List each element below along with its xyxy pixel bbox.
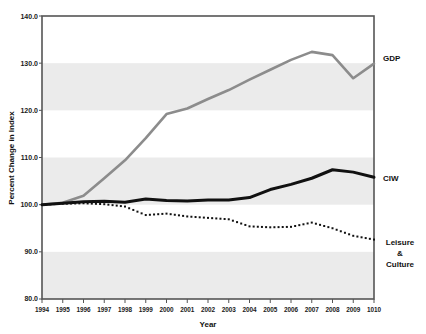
leisure-dot (132, 209, 134, 211)
leisure-dot (161, 213, 163, 215)
leisure-dot (207, 217, 209, 219)
line-chart: 140.0 130.0 120.0 110.0 100.0 90.0 80.0 … (0, 0, 426, 334)
leisure-dot (265, 226, 267, 228)
leisure-dot (120, 205, 122, 207)
leisure-dot (290, 226, 292, 228)
x-tick-label: 2001 (180, 306, 195, 313)
leisure-dot (124, 206, 126, 208)
leisure-dot (41, 204, 43, 206)
x-tick-label: 1994 (35, 306, 50, 313)
leisure-dot (344, 232, 346, 234)
leisure-dot (166, 213, 168, 215)
leisure-dot (62, 203, 64, 205)
leisure-dot (298, 224, 300, 226)
leisure-dot (269, 226, 271, 228)
leisure-dot (232, 220, 234, 222)
series-label-ciw: CIW (383, 174, 399, 183)
x-tick-label: 1010 (367, 306, 382, 313)
leisure-dot (45, 203, 47, 205)
leisure-dot (70, 203, 72, 205)
x-tick-label: 1995 (56, 306, 71, 313)
leisure-dot (49, 203, 51, 205)
leisure-dot (95, 203, 97, 205)
leisure-dot (149, 214, 151, 216)
leisure-dot (170, 213, 172, 215)
leisure-dot (365, 237, 367, 239)
leisure-dot (83, 202, 85, 204)
leisure-dot (174, 214, 176, 216)
leisure-dot (219, 218, 221, 220)
background-band (42, 158, 374, 205)
leisure-dot (228, 218, 230, 220)
leisure-dot (356, 236, 358, 238)
y-tick-label: 140.0 (20, 13, 38, 20)
leisure-dot (145, 214, 147, 216)
leisure-dot (224, 218, 226, 220)
leisure-dot (74, 202, 76, 204)
leisure-dot (294, 225, 296, 227)
series-label-leisure-line3: Culture (386, 260, 415, 269)
leisure-dot (315, 223, 317, 225)
y-tick-label: 130.0 (20, 60, 38, 67)
leisure-dot (211, 217, 213, 219)
leisure-dot (307, 222, 309, 224)
background-band (42, 63, 374, 110)
leisure-dot (182, 215, 184, 217)
leisure-dot (348, 233, 350, 235)
leisure-dot (203, 217, 205, 219)
leisure-dot (273, 226, 275, 228)
leisure-dot (103, 203, 105, 205)
leisure-dot (302, 223, 304, 225)
x-tick-label: 2003 (222, 306, 237, 313)
y-tick-label: 100.0 (20, 201, 38, 208)
leisure-dot (327, 226, 329, 228)
leisure-dot (99, 203, 101, 205)
y-tick-label: 110.0 (21, 154, 38, 161)
leisure-dot (91, 203, 93, 205)
background-band (42, 252, 374, 299)
leisure-dot (240, 223, 242, 225)
leisure-dot (66, 203, 68, 205)
leisure-dot (178, 214, 180, 216)
leisure-dot (332, 227, 334, 229)
leisure-dot (286, 226, 288, 228)
leisure-dot (112, 204, 114, 206)
leisure-dot (340, 230, 342, 232)
x-tick-label: 1996 (76, 306, 91, 313)
leisure-dot (244, 224, 246, 226)
x-tick-label: 2002 (201, 306, 216, 313)
x-tick-label: 1997 (97, 306, 112, 313)
x-tick-labels: 1994199519961997199819992000200120022003… (35, 306, 382, 313)
y-tick-label: 90.0 (24, 248, 38, 255)
leisure-dot (199, 216, 201, 218)
x-tick-label: 2005 (263, 306, 278, 313)
leisure-dot (261, 226, 263, 228)
leisure-dot (249, 225, 251, 227)
leisure-dot (369, 238, 371, 240)
leisure-dot (319, 224, 321, 226)
leisure-dot (361, 236, 363, 238)
y-axis-title: Percent Change in Index (7, 111, 16, 205)
leisure-dot (78, 202, 80, 204)
leisure-dot (58, 203, 60, 205)
leisure-dot (352, 235, 354, 237)
x-tick-label: 2009 (346, 306, 361, 313)
x-tick-label: 2007 (305, 306, 320, 313)
x-tick-label: 1999 (139, 306, 154, 313)
x-tick-label: 2004 (242, 306, 257, 313)
leisure-dot (87, 202, 89, 204)
leisure-dot (373, 239, 375, 241)
series-label-gdp: GDP (383, 54, 401, 63)
leisure-dot (157, 213, 159, 215)
leisure-dot (253, 226, 255, 228)
leisure-dot (136, 211, 138, 213)
y-tick-label: 120.0 (20, 107, 38, 114)
leisure-dot (215, 217, 217, 219)
leisure-dot (336, 229, 338, 231)
leisure-dot (153, 213, 155, 215)
leisure-dot (107, 204, 109, 206)
leisure-dot (257, 226, 259, 228)
chart-container: 140.0 130.0 120.0 110.0 100.0 90.0 80.0 … (0, 0, 426, 334)
x-tick-label: 1998 (118, 306, 133, 313)
leisure-dot (311, 222, 313, 224)
